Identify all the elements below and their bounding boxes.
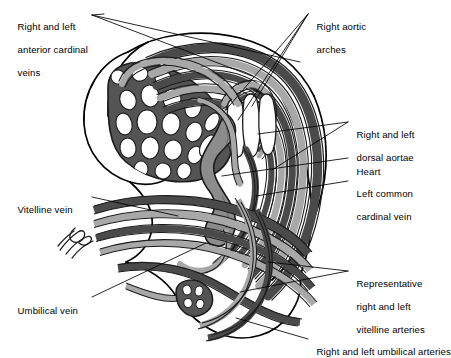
label-right-aortic-arches: Right aortic arches [311,10,366,56]
label-vitelline-vein: Vitelline vein [12,193,73,216]
label-line: anterior cardinal [18,44,88,55]
label-line: Right aortic [317,21,367,32]
label-left-common-cardinal-vein: Left common cardinal vein [351,177,413,223]
label-anterior-cardinal-veins: Right and left anterior cardinal veins [12,10,88,78]
label-vitelline-arteries: Representative right and left vitelline … [351,267,425,335]
label-line: Right and left umbilical arteries [317,346,451,357]
label-umbilical-arteries: Right and left umbilical arteries [311,335,451,358]
label-line: veins [18,67,41,78]
label-line: Vitelline vein [18,204,73,215]
label-line: arches [317,44,346,55]
label-heart: Heart [351,155,380,178]
label-line: Heart [357,166,381,177]
label-umbilical-vein: Umbilical vein [12,294,78,317]
label-line: right and left [357,301,411,312]
label-line: Left common [357,188,414,199]
label-line: vitelline arteries [357,324,425,335]
label-line: Representative [357,278,423,289]
label-line: Umbilical vein [18,305,79,316]
label-line: Right and left [357,129,415,140]
label-line: Right and left [18,21,76,32]
label-line: cardinal vein [357,211,412,222]
